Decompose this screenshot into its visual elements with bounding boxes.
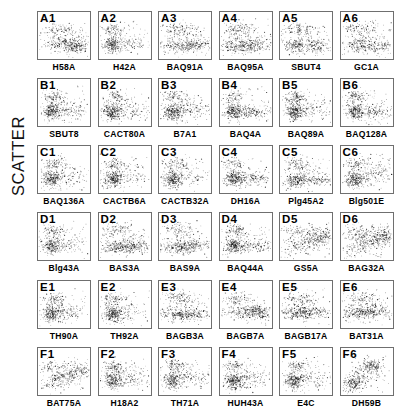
- plot-area: E6: [340, 280, 394, 329]
- sample-label: Blg43A: [30, 263, 98, 273]
- panel-id: C5: [282, 146, 298, 158]
- plot-area: F3: [158, 347, 212, 396]
- panel-id: D5: [282, 213, 298, 225]
- sample-label: BAQ128A: [333, 129, 401, 139]
- plot-area: E2: [98, 280, 152, 329]
- panel-id: C1: [40, 146, 56, 158]
- sample-label: BAS9A: [151, 263, 219, 273]
- panel-id: B5: [282, 79, 298, 91]
- panel-id: B6: [343, 79, 359, 91]
- panel-id: A6: [343, 12, 359, 24]
- sample-label: TH90A: [30, 331, 98, 341]
- panel-id: F4: [222, 348, 237, 360]
- sample-label: DH59B: [333, 398, 401, 408]
- plot-area: A6: [340, 11, 394, 60]
- panel-id: E6: [343, 281, 359, 293]
- panel-id: B3: [161, 79, 177, 91]
- plot-area: B2: [98, 78, 152, 127]
- plot-area: C3: [158, 145, 212, 194]
- plot-area: D3: [158, 212, 212, 261]
- sample-label: Plg45A2: [272, 196, 340, 206]
- plot-area: F4: [219, 347, 273, 396]
- sample-label: E4C: [272, 398, 340, 408]
- panel-id: C3: [161, 146, 177, 158]
- sample-label: SBUT4: [272, 62, 340, 72]
- plot-area: C1: [37, 145, 91, 194]
- panel-id: D3: [161, 213, 177, 225]
- plot-area: A4: [219, 11, 273, 60]
- plot-area: B6: [340, 78, 394, 127]
- sample-label: BAQ136A: [30, 196, 98, 206]
- sample-label: B7A1: [151, 129, 219, 139]
- panel-id: F2: [101, 348, 116, 360]
- panel-id: C4: [222, 146, 238, 158]
- plot-area: D2: [98, 212, 152, 261]
- sample-label: BAT75A: [30, 398, 98, 408]
- sample-label: BAQ44A: [212, 263, 280, 273]
- sample-label: H42A: [91, 62, 159, 72]
- sample-label: H58A: [30, 62, 98, 72]
- panel-id: A1: [40, 12, 56, 24]
- plot-area: C2: [98, 145, 152, 194]
- plot-area: B5: [279, 78, 333, 127]
- y-axis-label: SCATTER: [9, 106, 29, 206]
- panel-id: D6: [343, 213, 359, 225]
- plot-area: A1: [37, 11, 91, 60]
- panel-id: B2: [101, 79, 117, 91]
- sample-label: BAQ91A: [151, 62, 219, 72]
- sample-label: BAGB3A: [151, 331, 219, 341]
- plot-area: E3: [158, 280, 212, 329]
- sample-label: GS5A: [272, 263, 340, 273]
- sample-label: BAGB7A: [212, 331, 280, 341]
- sample-label: TH92A: [91, 331, 159, 341]
- panel-id: A3: [161, 12, 177, 24]
- scatter-panel-grid: A1H58AA2H42AA3BAQ91AA4BAQ95AA5SBUT4A6GC1…: [37, 11, 399, 413]
- panel-id: D2: [101, 213, 117, 225]
- panel-id: A2: [101, 12, 117, 24]
- plot-area: F5: [279, 347, 333, 396]
- sample-label: CACTB6A: [91, 196, 159, 206]
- panel-id: F3: [161, 348, 176, 360]
- plot-area: D4: [219, 212, 273, 261]
- sample-label: BAQ4A: [212, 129, 280, 139]
- panel-id: E4: [222, 281, 238, 293]
- plot-area: F2: [98, 347, 152, 396]
- plot-area: E5: [279, 280, 333, 329]
- plot-area: F1: [37, 347, 91, 396]
- sample-label: CACTB32A: [151, 196, 219, 206]
- sample-label: Blg501E: [333, 196, 401, 206]
- plot-area: C5: [279, 145, 333, 194]
- panel-id: F6: [343, 348, 358, 360]
- sample-label: GC1A: [333, 62, 401, 72]
- plot-area: E4: [219, 280, 273, 329]
- sample-label: DH16A: [212, 196, 280, 206]
- sample-label: HUH43A: [212, 398, 280, 408]
- panel-id: E1: [40, 281, 56, 293]
- panel-id: D1: [40, 213, 56, 225]
- plot-area: C6: [340, 145, 394, 194]
- plot-area: A2: [98, 11, 152, 60]
- panel-id: F5: [282, 348, 297, 360]
- panel-id: C6: [343, 146, 359, 158]
- sample-label: CACT80A: [91, 129, 159, 139]
- plot-area: B4: [219, 78, 273, 127]
- sample-label: SBUT8: [30, 129, 98, 139]
- panel-id: F1: [40, 348, 55, 360]
- panel-id: E5: [282, 281, 298, 293]
- sample-label: BAGB17A: [272, 331, 340, 341]
- panel-id: A5: [282, 12, 298, 24]
- scatter-plot-figure: SCATTER A1H58AA2H42AA3BAQ91AA4BAQ95AA5SB…: [0, 0, 407, 417]
- sample-label: BAG32A: [333, 263, 401, 273]
- plot-area: D5: [279, 212, 333, 261]
- plot-area: F6: [340, 347, 394, 396]
- panel-id: B1: [40, 79, 56, 91]
- panel-id: C2: [101, 146, 117, 158]
- sample-label: BAS3A: [91, 263, 159, 273]
- panel-id: E3: [161, 281, 177, 293]
- sample-label: BAT31A: [333, 331, 401, 341]
- plot-area: D1: [37, 212, 91, 261]
- plot-area: D6: [340, 212, 394, 261]
- sample-label: TH71A: [151, 398, 219, 408]
- panel-id: A4: [222, 12, 238, 24]
- plot-area: E1: [37, 280, 91, 329]
